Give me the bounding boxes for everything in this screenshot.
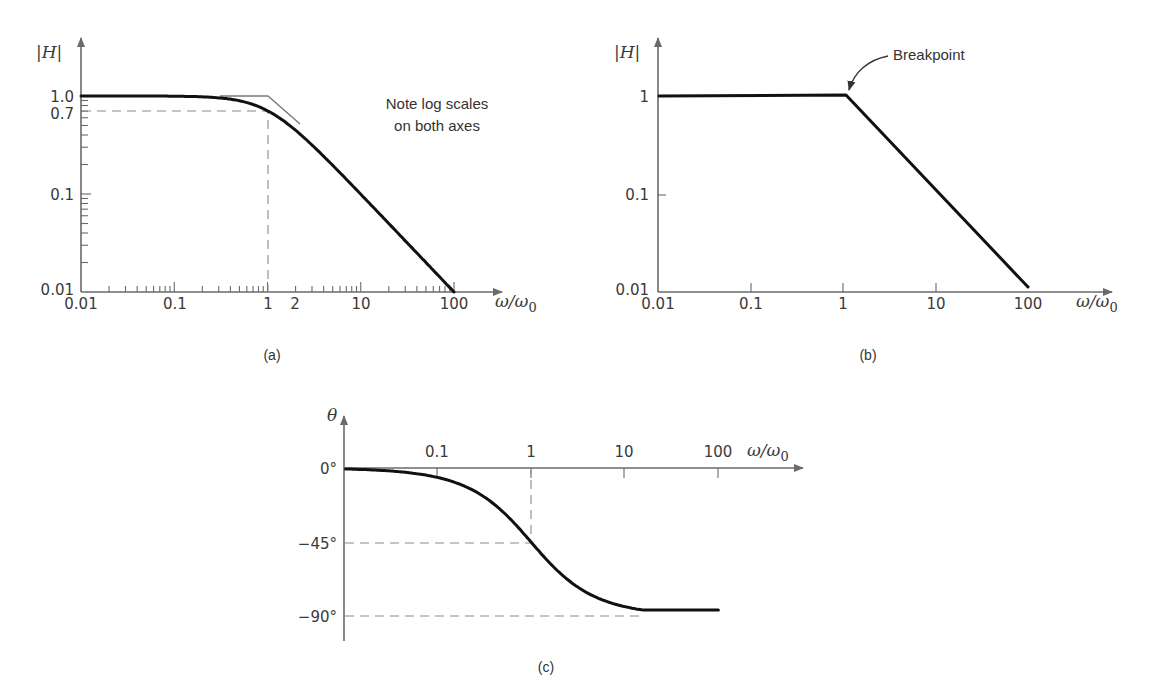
panel-c-x-axis-title: ω/ω0: [747, 440, 789, 464]
panel-b-label: (b): [859, 347, 876, 363]
panel-b-asymptotic-curve: [659, 95, 1028, 287]
panel-a-xtick-10: 10: [351, 295, 370, 313]
panel-a-ytick-1.0: 1.0: [50, 88, 74, 106]
breakpoint-arrow-icon: [849, 56, 888, 90]
panel-a-xtick-2: 2: [290, 295, 300, 313]
panel-b-ytick-1: 1: [639, 88, 649, 106]
panel-b-xtick-0.1: 0.1: [739, 295, 763, 313]
panel-b-y-axis-title: |H|: [614, 42, 640, 62]
panel-c-xtick-0.1: 0.1: [425, 443, 449, 461]
breakpoint-annotation: Breakpoint: [893, 46, 966, 63]
panel-b-xtick-1: 1: [838, 295, 848, 313]
panel-c-ytick-45: −45°: [298, 535, 337, 553]
panel-a-note-line1: Note log scales: [386, 95, 489, 112]
panel-a-xtick-0.01: 0.01: [64, 295, 97, 313]
panel-c-label: (c): [538, 659, 554, 675]
panel-a-ytick-0.1: 0.1: [50, 186, 74, 204]
panel-c-ytick-0: 0°: [320, 460, 337, 478]
panel-a-x-minor-ticks: [109, 282, 454, 292]
panel-c-phase: θ 0° −45° −90° 0.1 1 10 100 ω/ω0 (c): [298, 405, 803, 675]
panel-c-xtick-1: 1: [526, 443, 536, 461]
panel-b-xtick-10: 10: [926, 295, 945, 313]
panel-a-magnitude-exact: |H| 1.0 0.7 0.1 0.01 0.01 0.1 1 2 10 100…: [36, 38, 537, 363]
panel-a-xtick-100: 100: [440, 295, 469, 313]
panel-a-label: (a): [263, 347, 280, 363]
panel-b-x-axis-title: ω/ω0: [1076, 291, 1118, 315]
panel-c-y-axis-title: θ: [327, 405, 337, 425]
panel-c-guide-45: [345, 470, 531, 543]
panel-c-phase-curve: [346, 469, 719, 610]
panel-a-xtick-0.1: 0.1: [163, 295, 187, 313]
panel-c-ytick-90: −90°: [298, 608, 337, 626]
panel-b-ytick-0.1: 0.1: [625, 186, 649, 204]
panel-b-xtick-0.01: 0.01: [641, 295, 674, 313]
panel-a-ytick-0.7: 0.7: [50, 105, 74, 123]
panel-a-x-axis-title: ω/ω0: [495, 291, 537, 315]
panel-a-note-line2: on both axes: [394, 117, 480, 134]
panel-a-y-axis-title: |H|: [36, 42, 62, 62]
bode-figure: |H| 1.0 0.7 0.1 0.01 0.01 0.1 1 2 10 100…: [0, 0, 1150, 692]
panel-a-y-minor-ticks: [81, 96, 91, 262]
panel-b-magnitude-asymptotic: Breakpoint |H| 1 0.1 0.01 0.01 0.1 1 10 …: [614, 38, 1118, 363]
panel-b-xtick-100: 100: [1014, 295, 1043, 313]
panel-c-xtick-10: 10: [614, 443, 633, 461]
panel-a-guide-0.7: [82, 111, 268, 292]
panel-a-xtick-1: 1: [263, 295, 273, 313]
panel-c-xtick-100: 100: [704, 443, 733, 461]
